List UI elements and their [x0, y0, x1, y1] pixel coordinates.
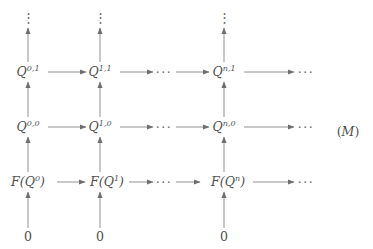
node-q-1-0-base: Q: [88, 119, 98, 134]
trailing-ellipsis-row-fq: ···: [298, 175, 315, 190]
equation-tag: (M): [337, 124, 360, 139]
node-q-1-1-base: Q: [88, 64, 98, 79]
arrow-layer: [0, 0, 373, 249]
node-q-0-1: Q0,1: [16, 65, 39, 79]
horizontal-ellipsis-row-q0: ···: [156, 120, 173, 135]
node-q-0-1-base: Q: [16, 64, 26, 79]
node-f-q-1-base: Q: [104, 174, 114, 189]
node-f-q-0: F(Q0): [11, 175, 45, 189]
commutative-diagram: ⋮ ⋮ ⋮ Q0,1 Q1,1 ··· Qn,1 ··· Q0,0 Q1,0 ·…: [0, 0, 373, 249]
node-q-n-1: Qn,1: [212, 65, 235, 79]
node-q-1-0: Q1,0: [88, 120, 111, 134]
node-q-n-1-base: Q: [212, 64, 222, 79]
node-f-q-1-prefix: F(: [90, 174, 104, 189]
node-f-q-n-prefix: F(: [211, 174, 225, 189]
horizontal-ellipsis-row-q1: ···: [156, 65, 173, 80]
node-q-n-1-superscript: n,1: [223, 64, 236, 73]
node-q-n-0-superscript: n,0: [223, 119, 236, 128]
node-f-q-0-prefix: F(: [11, 174, 25, 189]
equation-tag-close: ): [354, 124, 359, 139]
node-zero-col0: 0: [24, 231, 32, 244]
node-q-n-0: Qn,0: [212, 120, 235, 134]
trailing-ellipsis-row-q0: ···: [298, 120, 315, 135]
node-f-q-1: F(Q1): [90, 175, 124, 189]
node-q-0-1-superscript: 0,1: [27, 64, 40, 73]
vertical-ellipsis-col1: ⋮: [94, 14, 107, 22]
trailing-ellipsis-row-q1: ···: [298, 65, 315, 80]
node-q-0-0: Q0,0: [16, 120, 39, 134]
vertical-ellipsis-coln: ⋮: [218, 14, 231, 22]
node-f-q-0-base: Q: [25, 174, 35, 189]
node-f-q-n-suffix: ): [240, 174, 245, 189]
node-f-q-n: F(Qn): [211, 175, 245, 189]
node-q-0-0-superscript: 0,0: [27, 119, 40, 128]
node-q-1-0-superscript: 1,0: [99, 119, 112, 128]
equation-tag-letter: M: [342, 124, 355, 139]
node-q-1-1: Q1,1: [88, 65, 111, 79]
node-q-0-0-base: Q: [16, 119, 26, 134]
node-zero-col1: 0: [96, 231, 104, 244]
horizontal-ellipsis-row-fq: ···: [156, 175, 173, 190]
node-q-n-0-base: Q: [212, 119, 222, 134]
node-f-q-1-suffix: ): [119, 174, 124, 189]
node-zero-coln: 0: [220, 231, 228, 244]
node-f-q-n-base: Q: [225, 174, 235, 189]
vertical-ellipsis-col0: ⋮: [22, 14, 35, 22]
node-f-q-0-suffix: ): [40, 174, 45, 189]
node-q-1-1-superscript: 1,1: [99, 64, 112, 73]
